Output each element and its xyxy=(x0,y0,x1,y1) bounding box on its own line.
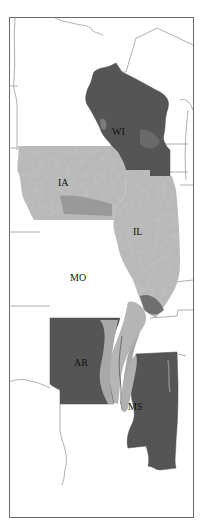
map: WI IA IL MO AR MS xyxy=(0,0,200,528)
state-IA xyxy=(17,146,126,220)
label-MO: MO xyxy=(70,272,86,283)
label-IA: IA xyxy=(58,177,69,188)
label-AR: AR xyxy=(74,357,88,368)
label-IL: IL xyxy=(133,226,142,237)
label-WI: WI xyxy=(112,126,125,137)
label-MS: MS xyxy=(128,401,142,412)
